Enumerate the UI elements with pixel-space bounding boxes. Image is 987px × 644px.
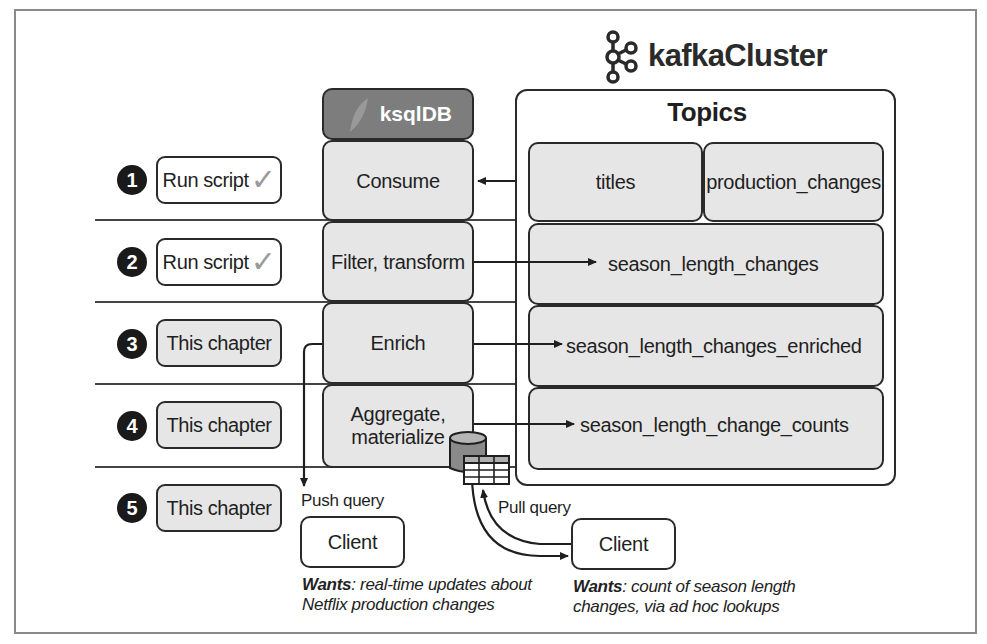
topic-counts-label: season_length_change_counts — [580, 413, 849, 437]
step-2-badge: 2 — [117, 247, 147, 277]
step-2-status-label: Run script — [163, 251, 249, 274]
topic-titles-label: titles — [596, 170, 635, 194]
pull-wants-prefix: Wants — [573, 577, 622, 596]
step-3-status-label: This chapter — [166, 332, 271, 355]
pull-client-box: Client — [571, 518, 676, 570]
stage-consume-label: Consume — [356, 169, 440, 193]
stage-enrich: Enrich — [322, 302, 474, 384]
push-client-wants: Wants: real-time updates about Netflix p… — [302, 575, 552, 615]
step-2-status: Run script ✓ — [156, 238, 282, 286]
stage-filter-transform: Filter, transform — [322, 221, 474, 302]
materialized-table-icon — [448, 430, 512, 486]
topic-season-length-change-counts: season_length_change_counts — [528, 387, 884, 470]
step-1-status-label: Run script — [163, 169, 249, 192]
step-5-badge: 5 — [117, 493, 147, 523]
ksqldb-label: ksqlDB — [380, 102, 452, 126]
step-3-status: This chapter — [156, 319, 282, 367]
check-icon: ✓ — [251, 252, 276, 272]
topic-production-changes: production_changes — [703, 142, 884, 222]
stage-aggregate-label: Aggregate, materialize — [342, 403, 454, 449]
pull-client-wants: Wants: count of season length changes, v… — [573, 577, 813, 617]
step-5-status: This chapter — [156, 484, 282, 532]
push-client-label: Client — [328, 530, 377, 554]
kafka-logo-icon — [603, 30, 639, 84]
topic-season-length-changes-enriched: season_length_changes_enriched — [528, 305, 884, 387]
step-4-status-label: This chapter — [166, 414, 271, 437]
kafka-cluster-title: kafkaCluster — [648, 38, 827, 74]
step-1-badge: 1 — [117, 165, 147, 195]
check-icon: ✓ — [251, 170, 276, 190]
pull-client-label: Client — [599, 532, 648, 556]
step-1-status: Run script ✓ — [156, 156, 282, 204]
topic-season-length-changes: season_length_changes — [528, 223, 884, 305]
stage-enrich-label: Enrich — [371, 331, 426, 355]
topic-season-length-changes-label: season_length_changes — [608, 252, 819, 276]
topic-enriched-label: season_length_changes_enriched — [566, 334, 862, 358]
stage-consume: Consume — [322, 140, 474, 221]
step-5-status-label: This chapter — [166, 497, 271, 520]
topic-titles: titles — [528, 142, 703, 222]
pull-query-label: Pull query — [498, 498, 571, 518]
step-4-status: This chapter — [156, 401, 282, 449]
step-4-badge: 4 — [117, 411, 147, 441]
push-client-box: Client — [300, 516, 405, 568]
ksqldb-header: ksqlDB — [322, 88, 474, 140]
topic-production-changes-label: production_changes — [706, 170, 881, 194]
push-query-label: Push query — [301, 491, 384, 511]
ksqldb-feather-icon — [346, 96, 372, 134]
push-wants-prefix: Wants — [302, 575, 351, 594]
step-3-badge: 3 — [117, 329, 147, 359]
stage-filter-transform-label: Filter, transform — [331, 250, 465, 274]
topics-title: Topics — [517, 97, 897, 128]
